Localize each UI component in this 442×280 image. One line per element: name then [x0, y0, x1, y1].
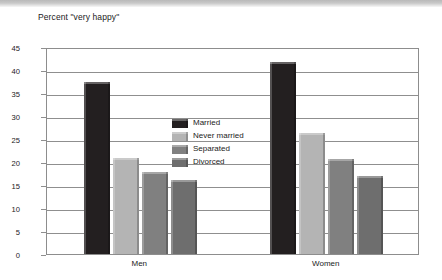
legend-label: Married	[193, 119, 220, 127]
bar-top-highlight	[142, 172, 168, 174]
legend-swatch	[172, 145, 188, 154]
bar-top-highlight	[270, 62, 296, 64]
bar	[142, 172, 168, 254]
bar-face	[328, 159, 354, 254]
plot-area: MarriedNever marriedSeparatedDivorced	[46, 48, 419, 255]
bar	[113, 158, 139, 254]
bar	[299, 133, 325, 254]
y-axis-tick-label: 15	[0, 182, 20, 191]
chart-legend: MarriedNever marriedSeparatedDivorced	[172, 117, 268, 168]
bar-face	[299, 133, 325, 254]
y-axis-tick-label: 20	[0, 159, 20, 168]
bar-left-highlight	[113, 158, 115, 254]
legend-label: Never married	[193, 132, 244, 140]
gridline	[47, 72, 418, 73]
bar-right-shadow	[108, 82, 110, 254]
y-axis-tick-label: 30	[0, 113, 20, 122]
legend-swatch	[172, 119, 188, 128]
bar-top-highlight	[113, 158, 139, 160]
bar-right-shadow	[195, 180, 197, 254]
bar-top-highlight	[299, 133, 325, 135]
bar	[171, 180, 197, 254]
y-axis-tick-label: 0	[0, 251, 20, 260]
legend-item: Married	[172, 117, 268, 129]
y-axis-tick-label: 25	[0, 136, 20, 145]
legend-item: Separated	[172, 143, 268, 155]
bar-left-highlight	[299, 133, 301, 254]
bar-left-highlight	[270, 62, 272, 254]
bar-face	[270, 62, 296, 254]
x-axis-group-label: Men	[131, 259, 147, 268]
bar-left-highlight	[84, 82, 86, 254]
bar-left-highlight	[142, 172, 144, 254]
bar	[357, 176, 383, 254]
legend-swatch	[172, 132, 188, 141]
legend-label: Divorced	[193, 158, 225, 166]
legend-swatch-shadow	[186, 132, 188, 141]
bar-face	[113, 158, 139, 254]
legend-swatch-shadow	[186, 119, 188, 128]
bar-right-shadow	[352, 159, 354, 254]
bar-left-highlight	[171, 180, 173, 254]
y-axis-tick-label: 40	[0, 67, 20, 76]
bar-top-highlight	[357, 176, 383, 178]
bar-face	[142, 172, 168, 254]
bar-right-shadow	[294, 62, 296, 254]
bar-top-highlight	[328, 159, 354, 161]
legend-label: Separated	[193, 145, 230, 153]
bar-top-highlight	[84, 82, 110, 84]
bar-left-highlight	[328, 159, 330, 254]
bar-face	[84, 82, 110, 254]
y-axis-tick-label: 45	[0, 44, 20, 53]
bar-top-highlight	[171, 180, 197, 182]
bar-right-shadow	[137, 158, 139, 254]
bar-right-shadow	[381, 176, 383, 254]
bar-right-shadow	[323, 133, 325, 254]
bar	[328, 159, 354, 254]
bar-left-highlight	[357, 176, 359, 254]
legend-item: Divorced	[172, 156, 268, 168]
legend-item: Never married	[172, 130, 268, 142]
y-axis-tick-label: 5	[0, 228, 20, 237]
bar-face	[171, 180, 197, 254]
legend-swatch	[172, 158, 188, 167]
x-axis-group-label: Women	[312, 259, 339, 268]
legend-swatch-shadow	[186, 158, 188, 167]
y-axis-tick-label: 10	[0, 205, 20, 214]
legend-swatch-shadow	[186, 145, 188, 154]
bar	[270, 62, 296, 254]
bar-right-shadow	[166, 172, 168, 254]
y-axis-tick-label: 35	[0, 90, 20, 99]
bar-face	[357, 176, 383, 254]
bar	[84, 82, 110, 254]
